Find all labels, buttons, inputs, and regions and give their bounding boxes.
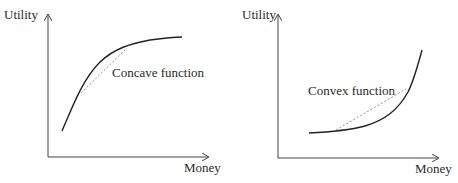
concave-curve — [62, 37, 182, 131]
convex-function-label: Convex function — [308, 84, 395, 97]
left-y-axis-label: Utility — [4, 8, 38, 21]
left-x-axis-label: Money — [184, 161, 221, 174]
concave-diagram — [48, 15, 208, 157]
concave-function-label: Concave function — [112, 66, 204, 79]
right-y-axis-label: Utility — [242, 8, 276, 21]
right-x-axis-label: Money — [415, 162, 452, 175]
